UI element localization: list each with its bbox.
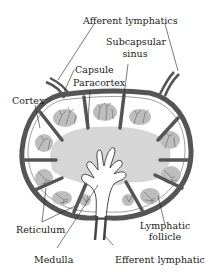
- afferent-lymphatic-right: [160, 72, 179, 96]
- lymph-node-diagram: Afferent lymphatics Subcapsular sinus Ca…: [0, 0, 214, 274]
- label-paracortex: Paracortex: [73, 77, 125, 88]
- label-efferent-lymphatic: Efferent lymphatic: [115, 254, 205, 265]
- label-capsule: Capsule: [75, 64, 114, 75]
- label-cortex: Cortex: [12, 95, 44, 106]
- label-subcapsular-sinus-line1: Subcapsular: [106, 36, 164, 47]
- label-lymphatic-follicle-line1: Lymphatic: [135, 220, 195, 231]
- label-lymphatic-follicle-line2: follicle: [135, 231, 195, 242]
- label-medulla: Medulla: [34, 254, 73, 265]
- label-reticulum: Reticulum: [16, 224, 65, 235]
- label-afferent-lymphatics: Afferent lymphatics: [83, 15, 178, 26]
- label-subcapsular-sinus-line2: sinus: [106, 48, 164, 59]
